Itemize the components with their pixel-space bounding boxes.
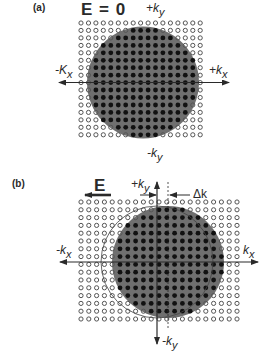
empty-state-dot [198,133,202,137]
occupied-state-dot [188,231,193,236]
empty-state-dot [235,278,239,282]
occupied-state-dot [146,28,151,33]
empty-state-dot [102,208,106,212]
empty-state-dot [87,301,91,305]
empty-state-dot [110,208,114,212]
empty-state-dot [219,239,223,243]
empty-state-dot [79,28,83,32]
occupied-state-dot [161,36,166,41]
empty-state-dot [180,317,184,321]
occupied-state-dot [188,239,193,244]
occupied-state-dot [196,270,201,275]
empty-state-dot [102,255,106,259]
empty-state-dot [227,317,231,321]
empty-state-dot [102,309,106,313]
occupied-state-dot [116,110,121,115]
plus-kx-label-b: kx [243,243,255,260]
occupied-state-dot [149,270,154,275]
empty-state-dot [95,294,99,298]
empty-state-dot [126,208,130,212]
occupied-state-dot [94,73,99,78]
empty-state-dot [227,200,231,204]
empty-state-dot [79,36,83,40]
occupied-state-dot [164,293,169,298]
empty-state-dot [198,36,202,40]
occupied-state-dot [153,132,158,137]
occupied-state-dot [172,278,177,283]
empty-state-dot [102,270,106,274]
occupied-state-dot [116,58,121,63]
occupied-state-dot [118,285,123,290]
occupied-state-dot [211,262,216,267]
occupied-state-dot [116,88,121,93]
empty-state-dot [168,133,172,137]
occupied-state-dot [133,239,138,244]
occupied-state-dot [153,125,158,130]
empty-state-dot [110,278,114,282]
occupied-state-dot [118,278,123,283]
empty-state-dot [191,43,195,47]
occupied-state-dot [172,309,177,314]
empty-state-dot [204,309,208,313]
empty-state-dot [227,223,231,227]
empty-state-dot [94,125,98,129]
empty-state-dot [204,208,208,212]
empty-state-dot [219,208,223,212]
empty-state-dot [118,294,122,298]
empty-state-dot [235,231,239,235]
minus-ky-label-a: -ky [147,146,163,163]
empty-state-dot [227,309,231,313]
occupied-state-dot [161,103,166,108]
occupied-state-dot [125,293,130,298]
empty-state-dot [94,21,98,25]
empty-state-dot [212,317,216,321]
empty-state-dot [227,270,231,274]
plus-ky-label-b: +ky [131,177,150,194]
occupied-state-dot [146,110,151,115]
empty-state-dot [188,200,192,204]
occupied-state-dot [116,118,121,123]
occupied-state-dot [108,65,113,70]
occupied-state-dot [176,95,181,100]
empty-state-dot [198,58,202,62]
empty-state-dot [79,58,83,62]
empty-state-dot [134,200,138,204]
empty-state-dot [124,21,128,25]
occupied-state-dot [196,285,201,290]
occupied-state-dot [153,43,158,48]
empty-state-dot [102,294,106,298]
empty-state-dot [198,103,202,107]
occupied-state-dot [125,285,130,290]
empty-state-dot [101,21,105,25]
empty-state-dot [141,200,145,204]
occupied-state-dot [133,293,138,298]
occupied-state-dot [176,65,181,70]
occupied-state-dot [131,95,136,100]
occupied-state-dot [211,231,216,236]
occupied-state-dot [149,231,154,236]
occupied-state-dot [101,58,106,63]
empty-state-dot [212,301,216,305]
occupied-state-dot [123,36,128,41]
occupied-state-dot [211,285,216,290]
occupied-state-dot [133,285,138,290]
occupied-state-dot [188,301,193,306]
occupied-state-dot [153,88,158,93]
occupied-state-dot [164,309,169,314]
occupied-state-dot [180,278,185,283]
occupied-state-dot [108,88,113,93]
empty-state-dot [126,317,130,321]
occupied-state-dot [161,50,166,55]
occupied-state-dot [118,262,123,267]
panel-b-label: (b) [12,178,25,189]
occupied-state-dot [172,262,177,267]
occupied-state-dot [131,58,136,63]
empty-state-dot [95,216,99,220]
empty-state-dot [79,200,83,204]
occupied-state-dot [176,43,181,48]
empty-state-dot [198,51,202,55]
occupied-state-dot [176,88,181,93]
empty-state-dot [183,28,187,32]
empty-state-dot [79,247,83,251]
occupied-state-dot [146,73,151,78]
